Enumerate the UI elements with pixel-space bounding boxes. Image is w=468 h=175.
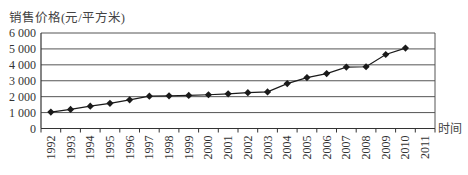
x-tick-label: 2005 xyxy=(300,136,314,160)
y-tick-label: 3 000 xyxy=(9,74,36,88)
x-tick-label: 1999 xyxy=(182,136,196,160)
x-tick-label: 2003 xyxy=(261,136,275,160)
x-tick-label: 2007 xyxy=(339,136,353,160)
x-tick-label: 2004 xyxy=(280,136,294,160)
x-tick-label: 1998 xyxy=(162,136,176,160)
x-tick-label: 1994 xyxy=(83,136,97,160)
x-tick-label: 1996 xyxy=(123,136,137,160)
diamond-marker xyxy=(362,63,369,70)
diamond-marker xyxy=(126,96,133,103)
line-chart: 01 0002 0003 0004 0005 0006 000199219931… xyxy=(0,0,468,175)
diamond-marker xyxy=(323,70,330,77)
x-tick-label: 1993 xyxy=(64,136,78,160)
diamond-marker xyxy=(47,109,54,116)
diamond-marker xyxy=(106,100,113,107)
y-tick-label: 1 000 xyxy=(9,106,36,120)
x-tick-label: 2000 xyxy=(201,136,215,160)
x-tick-label: 1992 xyxy=(44,136,58,160)
diamond-marker xyxy=(382,51,389,58)
diamond-marker xyxy=(165,92,172,99)
x-tick-label: 2001 xyxy=(221,136,235,160)
y-tick-label: 5 000 xyxy=(9,42,36,56)
x-tick-label: 1997 xyxy=(142,136,156,160)
diamond-marker xyxy=(303,74,310,81)
x-tick-label: 2011 xyxy=(418,136,432,160)
diamond-marker xyxy=(205,91,212,98)
y-tick-label: 4 000 xyxy=(9,58,36,72)
diamond-marker xyxy=(185,92,192,99)
y-tick-label: 0 xyxy=(30,122,36,136)
x-tick-label: 2010 xyxy=(398,136,412,160)
diamond-marker xyxy=(402,45,409,52)
y-tick-label: 2 000 xyxy=(9,90,36,104)
x-tick-label: 2009 xyxy=(379,136,393,160)
x-tick-label: 1995 xyxy=(103,136,117,160)
data-line xyxy=(51,48,406,112)
diamond-marker xyxy=(146,93,153,100)
diamond-marker xyxy=(264,88,271,95)
diamond-marker xyxy=(67,106,74,113)
x-tick-label: 2002 xyxy=(241,136,255,160)
diamond-marker xyxy=(244,89,251,96)
x-tick-label: 2008 xyxy=(359,136,373,160)
y-tick-label: 6 000 xyxy=(9,26,36,40)
x-tick-label: 2006 xyxy=(320,136,334,160)
diamond-marker xyxy=(87,103,94,110)
